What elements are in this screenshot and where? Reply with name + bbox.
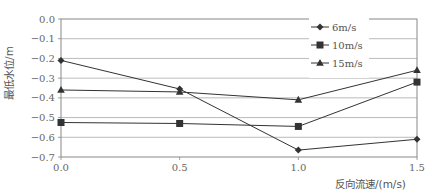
y-tick-label: −0.7: [31, 152, 55, 163]
y-tick-label: −0.6: [31, 132, 55, 143]
x-tick-label: 1.0: [290, 162, 306, 173]
series-10m-per-s: [58, 79, 421, 130]
legend-label: 15m/s: [332, 58, 363, 69]
legend-label: 6m/s: [332, 22, 356, 33]
y-tick-label: −0.3: [31, 73, 55, 84]
legend: 6m/s10m/s15m/s: [309, 18, 369, 78]
y-tick-label: −0.5: [31, 112, 55, 123]
y-tick-label: −0.4: [31, 92, 55, 103]
y-axis-label: 最低水位/m: [3, 46, 15, 100]
legend-label: 10m/s: [332, 40, 363, 51]
x-tick-label: 0.0: [53, 162, 69, 173]
x-axis-label: 反向流速/(m/s): [335, 178, 406, 190]
y-tick-label: −0.1: [31, 33, 55, 44]
y-axis-ticks: 0.0−0.1−0.2−0.3−0.4−0.5−0.6−0.7: [31, 14, 61, 163]
x-tick-label: 0.5: [172, 162, 188, 173]
x-axis-ticks: 0.00.51.01.5: [53, 157, 425, 173]
y-tick-label: 0.0: [39, 14, 55, 25]
y-tick-label: −0.2: [31, 53, 55, 64]
line-chart: 0.0−0.1−0.2−0.3−0.4−0.5−0.6−0.7 0.00.51.…: [0, 0, 437, 194]
x-tick-label: 1.5: [409, 162, 425, 173]
